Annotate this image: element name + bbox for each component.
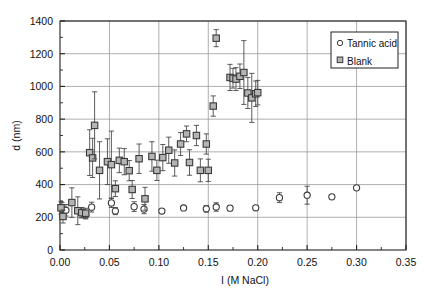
data-point-tannic-acid [141, 206, 147, 212]
data-point-tannic-acid [159, 208, 165, 214]
y-tick-label: 200 [35, 211, 53, 223]
data-point-blank [186, 159, 192, 165]
data-point-blank [60, 213, 66, 219]
data-point-blank [241, 69, 247, 75]
data-point-tannic-acid [353, 185, 359, 191]
data-point-blank [193, 132, 199, 138]
x-tick-label: 0.15 [198, 256, 219, 268]
data-point-blank [69, 199, 75, 205]
data-point-blank [112, 185, 118, 191]
data-point-blank [203, 141, 209, 147]
y-axis-title: d (nm) [10, 120, 22, 150]
x-tick-label: 0.35 [396, 256, 417, 268]
x-tick-label: 0.25 [297, 256, 318, 268]
y-tick-label: 1200 [30, 48, 54, 60]
x-tick-label: 0.20 [247, 256, 268, 268]
y-tick-label: 800 [35, 113, 53, 125]
data-point-blank [154, 167, 160, 173]
y-tick-label: 1400 [30, 15, 54, 27]
data-point-blank [213, 35, 219, 41]
data-point-tannic-acid [180, 205, 186, 211]
data-point-tannic-acid [131, 204, 137, 210]
legend-marker-blank [337, 57, 343, 63]
data-point-blank [205, 167, 211, 173]
data-point-blank [126, 167, 132, 173]
data-point-blank [108, 161, 114, 167]
data-point-blank [255, 89, 261, 95]
data-point-tannic-acid [227, 205, 233, 211]
data-point-tannic-acid [304, 192, 310, 198]
data-point-blank [171, 160, 177, 166]
x-tick-label: 0.10 [149, 256, 170, 268]
legend-label-blank: Blank [347, 56, 373, 67]
data-point-tannic-acid [276, 195, 282, 201]
data-point-blank [121, 158, 127, 164]
data-point-blank [166, 147, 172, 153]
data-point-blank [142, 196, 148, 202]
data-point-tannic-acid [253, 205, 259, 211]
data-point-tannic-acid [213, 204, 219, 210]
x-axis-title: I (M NaCl) [221, 274, 269, 286]
data-point-blank [83, 210, 89, 216]
data-point-blank [160, 154, 166, 160]
data-point-blank [197, 167, 203, 173]
data-point-blank [210, 103, 216, 109]
data-point-blank [149, 153, 155, 159]
data-point-tannic-acid [112, 208, 118, 214]
data-point-blank [96, 167, 102, 173]
data-point-tannic-acid [108, 200, 114, 206]
data-point-blank [183, 131, 189, 137]
y-tick-label: 400 [35, 178, 53, 190]
data-point-blank [177, 141, 183, 147]
x-tick-label: 0.00 [50, 256, 71, 268]
x-tick-label: 0.05 [99, 256, 120, 268]
legend-marker-tannic-acid [337, 40, 342, 45]
scatter-plot: 02004006008001000120014000.000.050.100.1… [0, 0, 431, 296]
data-point-blank [129, 186, 135, 192]
data-point-tannic-acid [89, 204, 95, 210]
y-tick-label: 600 [35, 146, 53, 158]
x-tick-label: 0.30 [346, 256, 367, 268]
data-point-tannic-acid [329, 194, 335, 200]
chart-root: 02004006008001000120014000.000.050.100.1… [0, 0, 431, 296]
data-point-blank [91, 122, 97, 128]
y-tick-label: 0 [47, 244, 53, 256]
data-point-blank [136, 156, 142, 162]
y-tick-label: 1000 [30, 80, 54, 92]
data-point-tannic-acid [203, 206, 209, 212]
legend-label-tannic-acid: Tannic acid [347, 38, 397, 49]
